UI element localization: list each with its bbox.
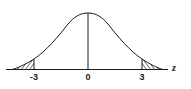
normal-curve-figure: -3 0 3 z [0, 0, 191, 89]
tick-label-3: 3 [139, 73, 144, 82]
tick-label-neg3: -3 [30, 73, 38, 82]
tick-label-0: 0 [85, 73, 90, 82]
axis-label-z: z [172, 63, 176, 73]
normal-curve-svg [0, 0, 191, 89]
